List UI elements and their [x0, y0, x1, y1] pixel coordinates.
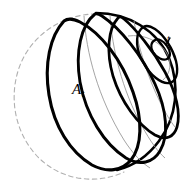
meridian-guide-1-icon: [84, 16, 150, 168]
region-label-At: At: [72, 82, 84, 99]
level-curve-inner: [137, 26, 177, 83]
region-label-base: A: [72, 81, 81, 97]
region-label-subscript: t: [81, 88, 84, 99]
sphere-foliation-svg: [0, 0, 188, 189]
small-loop-label-subscript: t: [167, 33, 170, 44]
level-curve-outer: [47, 19, 140, 170]
sphere-hidden-outline-icon: [14, 14, 124, 179]
figure-container: At t: [0, 0, 188, 189]
small-loop-label-t: t: [167, 34, 170, 44]
